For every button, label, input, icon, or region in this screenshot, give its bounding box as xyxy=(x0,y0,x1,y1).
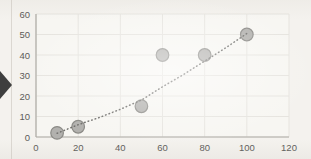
x-tick-label: 0 xyxy=(33,142,38,153)
x-tick-label: 40 xyxy=(115,142,126,153)
x-tick-label: 80 xyxy=(199,142,210,153)
y-tick-label: 60 xyxy=(19,9,30,20)
y-tick-label: 30 xyxy=(19,70,30,81)
x-tick-label: 60 xyxy=(157,142,168,153)
data-point-marker xyxy=(241,28,254,41)
scatter-chart[interactable]: 0102030405060020406080100120 xyxy=(0,0,311,159)
x-tick-label: 100 xyxy=(239,142,255,153)
data-point-marker xyxy=(156,49,169,62)
y-tick-label: 0 xyxy=(25,132,30,143)
data-point-marker xyxy=(198,49,211,62)
x-tick-label: 120 xyxy=(281,142,297,153)
y-tick-label: 20 xyxy=(19,91,30,102)
y-tick-label: 40 xyxy=(19,50,30,61)
chart-screenshot: 0102030405060020406080100120 xyxy=(0,0,311,159)
x-tick-label: 20 xyxy=(73,142,84,153)
y-tick-label: 10 xyxy=(19,111,30,122)
y-tick-label: 50 xyxy=(19,29,30,40)
